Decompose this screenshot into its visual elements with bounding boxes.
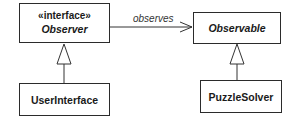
class-userinterface: UserInterface [19,83,110,116]
class-observable: Observable [193,12,281,44]
class-name: Observable [208,21,265,35]
class-name: Observer [41,22,87,36]
class-name: UserInterface [31,93,98,107]
observes-label: observes [133,13,174,24]
class-observer: «interface» Observer [19,3,110,43]
hollow-triangle-icon [57,44,71,64]
class-name: PuzzleSolver [209,90,274,104]
stereotype-label: «interface» [38,10,91,22]
hollow-triangle-icon [230,44,244,64]
class-puzzlesolver: PuzzleSolver [200,80,282,113]
